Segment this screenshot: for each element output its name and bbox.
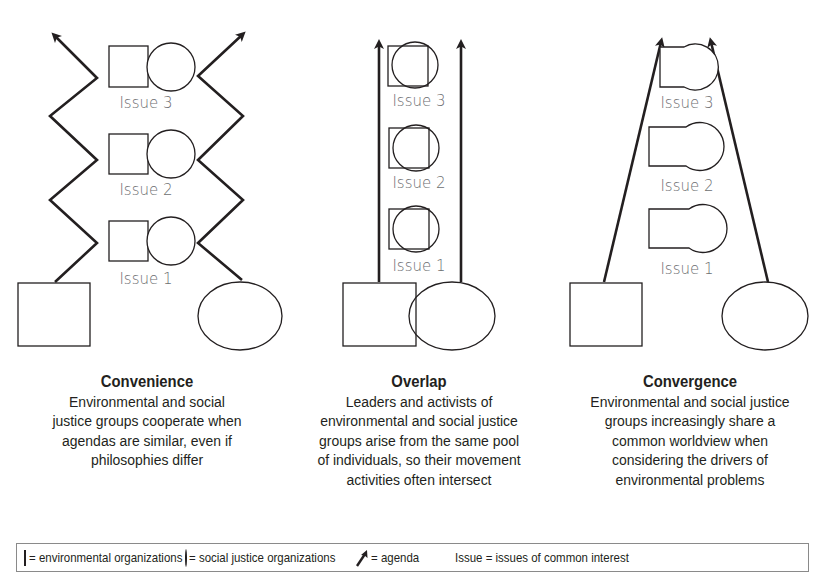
panel-overlap-graphic: Issue 3 Issue 2 Issue 1: [343, 42, 495, 350]
issue-2-label: Issue 2: [119, 181, 172, 199]
legend-label: = agenda: [371, 550, 419, 565]
caption-line: of individuals, so their movement: [307, 450, 532, 470]
caption-title: Convergence: [578, 372, 803, 392]
caption-line: environmental problems: [578, 470, 803, 490]
issue-1-label: Issue 1: [119, 270, 172, 288]
issue-1-merged-shape: [649, 204, 727, 252]
issue-2-label: Issue 2: [660, 177, 713, 195]
issue-symbol-text: Issue: [455, 550, 482, 565]
legend-item-environmental: = environmental organizations: [17, 550, 173, 566]
caption-line: considering the drivers of: [578, 450, 803, 470]
caption-convenience: Convenience Environmental and social jus…: [35, 372, 260, 470]
issue-1-social-circle: [393, 206, 439, 252]
issue-2-social-circle: [393, 125, 439, 171]
caption-line: environmental and social justice: [307, 411, 532, 431]
issue-3-label: Issue 3: [119, 94, 172, 112]
legend-label: = issues of common interest: [486, 550, 629, 565]
caption-line: Leaders and activists of: [307, 392, 532, 412]
issue-1-social-circle: [147, 217, 195, 265]
issue-1-label: Issue 1: [660, 260, 713, 278]
environmental-organization-square: [570, 283, 642, 346]
issue-2-label: Issue 2: [392, 174, 445, 192]
legend-label: = social justice organizations: [189, 550, 335, 565]
caption-line: common worldview when: [578, 431, 803, 451]
caption-overlap: Overlap Leaders and activists of environ…: [307, 372, 532, 489]
legend-item-issue: Issue = issues of common interest: [455, 550, 660, 565]
legend-label: = environmental organizations: [29, 550, 182, 565]
caption-line: philosophies differ: [35, 450, 260, 470]
issue-3-social-circle: [392, 42, 438, 88]
panel-convergence-graphic: Issue 3 Issue 2 Issue 1: [570, 42, 808, 350]
social-justice-organization-ellipse: [198, 282, 282, 350]
social-justice-organization-ellipse: [409, 282, 495, 350]
issue-3-label: Issue 3: [660, 94, 713, 112]
caption-title: Convenience: [35, 372, 260, 392]
circle-icon: [185, 549, 187, 567]
issue-1-environmental-square: [109, 221, 148, 261]
panel-convenience-graphic: Issue 3 Issue 2 Issue 1: [18, 35, 282, 350]
environmental-organization-square: [343, 283, 416, 346]
caption-line: justice groups cooperate when: [35, 411, 260, 431]
environmental-organization-square: [18, 283, 90, 346]
issue-3-environmental-square: [109, 46, 148, 87]
agenda-arrow-environmental: [50, 36, 97, 282]
legend-item-social-justice: = social justice organizations: [185, 549, 335, 567]
issue-2-merged-shape: [649, 123, 724, 171]
square-icon: [24, 550, 26, 566]
agenda-arrow-social-justice: [198, 35, 243, 280]
caption-line: Environmental and social justice: [578, 392, 803, 412]
caption-line: groups arise from the same pool: [307, 431, 532, 451]
caption-line: activities often intersect: [307, 470, 532, 490]
issue-2-social-circle: [147, 130, 195, 178]
issue-3-environmental-square: [388, 46, 428, 86]
caption-line: agendas are similar, even if: [35, 431, 260, 451]
legend-item-agenda: = agenda: [355, 549, 441, 567]
issue-1-environmental-square: [389, 209, 429, 249]
issue-3-merged-shape: [660, 44, 718, 90]
issue-1-label: Issue 1: [392, 257, 445, 275]
arrow-icon: [355, 549, 369, 567]
caption-title: Overlap: [307, 372, 532, 392]
diagram-canvas: Issue 3 Issue 2 Issue 1 Issue 3 Issue 2 …: [0, 0, 818, 584]
issue-2-environmental-square: [389, 128, 429, 168]
legend-issue-symbol: Issue = issues of common interest: [455, 550, 629, 565]
legend: = environmental organizations = social j…: [16, 543, 809, 572]
caption-convergence: Convergence Environmental and social jus…: [578, 372, 803, 489]
issue-2-environmental-square: [109, 134, 148, 174]
caption-line: groups increasingly share a: [578, 411, 803, 431]
caption-line: Environmental and social: [35, 392, 260, 412]
social-justice-organization-ellipse: [722, 282, 808, 350]
issue-3-label: Issue 3: [392, 92, 445, 110]
issue-3-social-circle: [147, 43, 195, 91]
